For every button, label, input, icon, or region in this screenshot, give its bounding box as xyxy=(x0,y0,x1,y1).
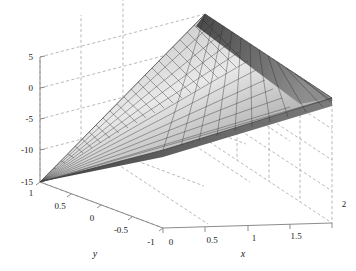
surface-mesh xyxy=(40,14,332,182)
y-tick-label: 0.5 xyxy=(54,201,66,211)
surface-plot: 5 0 -5 -10 -15 1 0.5 0 -0.5 -1 0 0.5 1 1… xyxy=(0,0,356,271)
figure-canvas: 5 0 -5 -10 -15 1 0.5 0 -0.5 -1 0 0.5 1 1… xyxy=(0,0,356,271)
x-tick-label: 2 xyxy=(342,199,347,209)
z-tick-label: -5 xyxy=(26,114,34,124)
z-tick-label: -10 xyxy=(21,145,33,155)
y-tick-label: 1 xyxy=(29,188,34,198)
z-tick-label: 5 xyxy=(29,52,34,62)
surface-top-face xyxy=(40,14,332,182)
z-tick-label: -15 xyxy=(21,177,33,187)
x-axis-title: x xyxy=(240,248,246,259)
y-axis-title: y xyxy=(92,248,98,259)
y-tick-label: -0.5 xyxy=(114,225,129,235)
x-tick-label: 0.5 xyxy=(206,235,218,245)
x-tick-label: 1.5 xyxy=(290,231,302,241)
y-tick-label: -1 xyxy=(147,237,155,247)
x-tick-label: 0 xyxy=(169,237,174,247)
y-tick-label: 0 xyxy=(90,213,95,223)
z-tick-label: 0 xyxy=(29,83,34,93)
x-tick-label: 1 xyxy=(252,233,257,243)
z-tick-labels: 5 0 -5 -10 -15 xyxy=(21,52,34,187)
